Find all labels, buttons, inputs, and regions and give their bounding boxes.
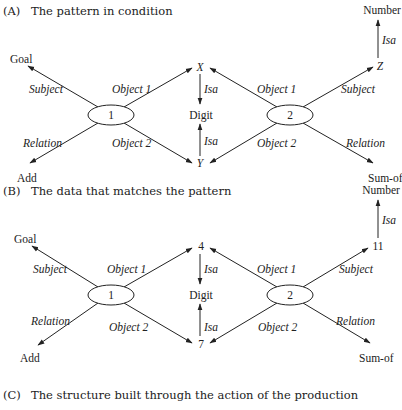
edge-label-relation: Relation (22, 137, 62, 149)
edge-label-relation-n2: Relation (345, 137, 385, 149)
edge-label-object2: Object 2 (112, 137, 152, 150)
node-add: Add (17, 172, 37, 184)
edge-label-isa-7: Isa (203, 321, 218, 333)
edge-label-object1-n2: Object 1 (257, 263, 296, 276)
edge-label-object1: Object 1 (112, 83, 151, 96)
node-x: X (195, 61, 204, 73)
edge-label-subject: Subject (33, 263, 68, 276)
section-b-caption: The data that matches the pattern (31, 184, 232, 198)
edge-label-relation: Relation (30, 315, 70, 327)
node-digit: Digit (189, 109, 213, 122)
section-a-caption: The pattern in condition (31, 4, 173, 18)
edge-label-isa-4: Isa (203, 263, 218, 275)
node-number: Number (362, 184, 400, 196)
production-pattern-figure: (A) The pattern in condition 1 2 Goal Ad… (0, 0, 402, 410)
node-sumof: Sum-of (359, 352, 394, 364)
edge-label-isa-y: Isa (203, 135, 218, 147)
edge-label-isa-z: Isa (381, 34, 396, 46)
edge-label-subject: Subject (29, 83, 64, 96)
section-b: (B) The data that matches the pattern 1 … (3, 184, 400, 364)
section-c: (C) The structure built through the acti… (3, 388, 359, 402)
node-4: 4 (198, 240, 204, 252)
edge-label-object2-n2: Object 2 (257, 137, 297, 150)
edge-label-subject-n2: Subject (339, 263, 374, 276)
node-add: Add (20, 352, 40, 364)
node-7: 7 (198, 338, 204, 350)
edge-label-object1-n2: Object 1 (257, 83, 296, 96)
section-a: (A) The pattern in condition 1 2 Goal Ad… (3, 4, 402, 184)
node-11: 11 (372, 240, 383, 252)
section-b-letter: (B) (3, 184, 20, 198)
node-1-label: 1 (108, 109, 114, 121)
section-a-letter: (A) (3, 4, 20, 18)
section-c-letter: (C) (3, 388, 21, 402)
edge-label-subject-n2: Subject (341, 83, 376, 96)
node-2-label: 2 (287, 109, 293, 121)
edge-label-isa-11: Isa (381, 214, 396, 226)
node-goal: Goal (10, 53, 32, 65)
node-digit: Digit (189, 289, 213, 302)
node-goal: Goal (14, 233, 36, 245)
edge-label-object2: Object 2 (109, 321, 149, 334)
edge-label-object2-n2: Object 2 (258, 321, 298, 334)
node-z: Z (377, 60, 384, 72)
node-y: Y (197, 157, 205, 169)
node-1-label: 1 (108, 289, 114, 301)
edge-label-relation-n2: Relation (335, 315, 375, 327)
node-2-label: 2 (287, 289, 293, 301)
node-sumof: Sum-of (368, 172, 402, 184)
edge-label-isa-x: Isa (203, 83, 218, 95)
section-c-caption: The structure built through the action o… (31, 388, 359, 402)
node-number: Number (363, 4, 401, 16)
edge-label-object1: Object 1 (107, 263, 146, 276)
